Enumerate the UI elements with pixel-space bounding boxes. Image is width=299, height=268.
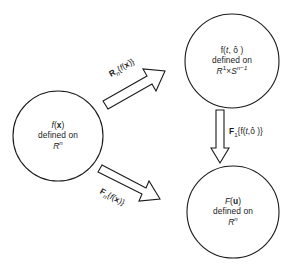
- frequency-domain-line3: Rn: [188, 217, 278, 227]
- label-spatial-domain: f(x) defined on Rn: [13, 120, 103, 151]
- label-arrow-fourier-1d: F1{f(t,ô )}: [229, 126, 263, 136]
- spatial-domain-line2: defined on: [13, 130, 103, 140]
- radon-domain-line1: f(t, ô ): [187, 45, 277, 55]
- radon-domain-line3: R1×Sn−1: [187, 66, 277, 76]
- frequency-domain-line2: defined on: [188, 206, 278, 216]
- spatial-domain-line3: Rn: [13, 141, 103, 151]
- frequency-domain-line1: F(u): [188, 196, 278, 206]
- spatial-domain-line1: f(x): [13, 120, 103, 130]
- radon-domain-line2: defined on: [187, 55, 277, 65]
- fourier-1-operator-subscript: 1: [234, 131, 237, 138]
- label-radon-domain: f(t, ô ) defined on R1×Sn−1: [187, 45, 277, 76]
- arrow-fourier-1d: [211, 110, 229, 163]
- label-frequency-domain: F(u) defined on Rn: [188, 196, 278, 227]
